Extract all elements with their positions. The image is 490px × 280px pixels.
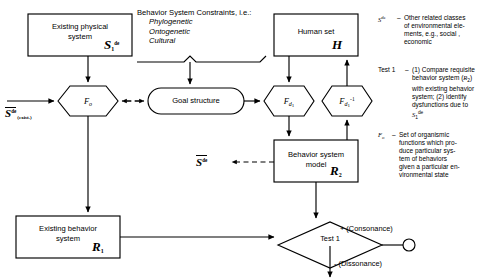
legend-s-line4: economic bbox=[404, 38, 490, 46]
bsm-symbol-sub: 2 bbox=[339, 172, 342, 178]
bsm-line2: model bbox=[306, 160, 327, 169]
legend-fo-line1: Set of organismic bbox=[399, 131, 490, 139]
constraint-item-phylogenetic: Phylogenetic bbox=[137, 17, 287, 26]
ebs-symbol-base: R bbox=[92, 239, 101, 254]
legend-s-key-sup: de bbox=[381, 15, 386, 20]
legend-fo-line6: vironmental state bbox=[399, 171, 490, 179]
behavior-system-constraints: Behavior System Constraints, i.e.: Phylo… bbox=[137, 8, 287, 45]
goal-structure-text: Goal structure bbox=[172, 96, 220, 105]
goal-structure-label: Goal structure bbox=[148, 96, 244, 105]
legend-fo-line2: functions which pro- bbox=[399, 139, 490, 147]
fd1inv-sup: -1 bbox=[350, 96, 355, 102]
behavior-system-model-label: Behavior system model bbox=[276, 150, 356, 169]
legend-fo-line3: duce particular sys- bbox=[399, 147, 490, 155]
behavior-system-model-symbol: R2 bbox=[330, 163, 342, 179]
terminator-circle bbox=[403, 239, 415, 251]
eps-line1: Existing physical bbox=[52, 22, 108, 31]
existing-behavior-system-symbol: R1 bbox=[92, 239, 104, 255]
test1-text: Test 1 bbox=[320, 234, 340, 243]
diagram-canvas: Existing physical system S1de Behavior S… bbox=[0, 0, 490, 280]
fd1inv-sub2: 1 bbox=[348, 103, 351, 108]
legend-fo-key-sub: o bbox=[382, 135, 384, 140]
legend-entry-test1: Test 1 – (1) Compare requisite behavior … bbox=[378, 66, 490, 123]
input-symbol-s-de-exist: Sde (exist.) bbox=[4, 103, 32, 121]
ebs-symbol-sub: 1 bbox=[101, 248, 104, 254]
legend-s-dash: – bbox=[397, 14, 401, 22]
bsm-symbol-base: R bbox=[330, 163, 339, 178]
branch-label-consonance: + (Consonance) bbox=[340, 224, 393, 233]
constraint-item-ontogenetic: Ontogenetic bbox=[137, 27, 287, 36]
human-set-symbol-base: H bbox=[332, 37, 342, 52]
constraint-item-cultural: Cultural bbox=[137, 36, 287, 45]
legend-test1-key: Test 1 bbox=[378, 66, 395, 74]
f-o-hexagon-label: Fo bbox=[58, 96, 118, 107]
human-set-symbol: H bbox=[332, 37, 342, 53]
ebs-line2: system bbox=[56, 234, 80, 243]
constraints-heading: Behavior System Constraints, i.e.: bbox=[137, 8, 287, 17]
human-set-text: Human set bbox=[298, 27, 335, 36]
consonance-text: + (Consonance) bbox=[340, 224, 393, 233]
human-set-label: Human set bbox=[276, 27, 356, 37]
eps-line2: system bbox=[68, 32, 92, 41]
output-symbol-sup: de bbox=[202, 157, 207, 163]
legend-fo-dash: – bbox=[392, 131, 396, 139]
legend-fo-line5: given a particular en- bbox=[399, 163, 490, 171]
eps-symbol-sub: 1 bbox=[111, 46, 114, 52]
fo-sub: o bbox=[89, 101, 92, 107]
legend-test1-line3: with existing behavior bbox=[412, 85, 490, 93]
f-d1-inverse-hexagon-label: Fd1-1 bbox=[322, 96, 372, 108]
ebs-line1: Existing behavior bbox=[39, 224, 97, 233]
legend-test1-line5: dysfunctions due to bbox=[412, 101, 490, 109]
output-symbol-s-de: Sde bbox=[196, 152, 207, 170]
legend-entry-s-de: Sde – Other related classes of environme… bbox=[378, 14, 490, 46]
test1-diamond-label: Test 1 bbox=[300, 234, 360, 243]
legend-s-line1: Other related classes bbox=[404, 14, 490, 22]
legend-test1-line1: (1) Compare requisite bbox=[412, 66, 490, 74]
legend-test1-line6: S1de bbox=[412, 109, 490, 122]
bsm-line1: Behavior system bbox=[288, 150, 344, 159]
eps-symbol-sup: de bbox=[114, 40, 119, 46]
f-d1-hexagon-label: Fd1 bbox=[264, 96, 314, 108]
legend-s-line3: ments, e.g., social , bbox=[404, 30, 490, 38]
branch-label-dissonance: - (Dissonance) bbox=[334, 259, 382, 268]
legend-s-line2: of environmental ele- bbox=[404, 22, 490, 30]
input-symbol-sup: de bbox=[11, 108, 16, 114]
legend-entry-f-o: Fo – Set of organismic functions which p… bbox=[378, 131, 490, 180]
legend-test1-line2: behavior system (R2) bbox=[412, 74, 490, 85]
fd1-sub2: 1 bbox=[292, 103, 295, 108]
existing-physical-system-symbol: S1de bbox=[104, 37, 119, 53]
input-symbol-sub: (exist.) bbox=[17, 115, 31, 120]
dissonance-text: - (Dissonance) bbox=[334, 259, 382, 268]
legend-fo-line4: tem of behaviors bbox=[399, 155, 490, 163]
constraints-brace bbox=[137, 56, 266, 62]
legend-test1-line4: system; (2) identify bbox=[412, 93, 490, 101]
legend-test1-dash: – bbox=[405, 66, 409, 74]
